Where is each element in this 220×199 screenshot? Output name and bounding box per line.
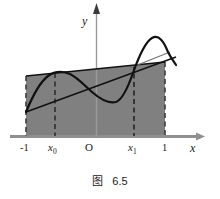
x-tick-label-minus-one: -1	[20, 142, 29, 153]
figure-caption-number: 6.5	[112, 175, 127, 187]
x-axis-label: x	[189, 141, 196, 155]
figure-plot: y x O -1 x0 x1 1	[0, 0, 220, 199]
y-axis-label: y	[81, 14, 88, 28]
figure-container: y x O -1 x0 x1 1 图6.5	[0, 0, 220, 199]
x-tick-label-one: 1	[162, 142, 167, 153]
figure-caption: 图6.5	[0, 172, 220, 188]
origin-label: O	[85, 141, 93, 153]
y-axis-arrow	[93, 3, 100, 14]
x-tick-label-x1: x1	[127, 141, 137, 156]
x-tick-label-x0: x0	[47, 141, 57, 156]
x-axis-arrow	[196, 133, 205, 141]
figure-caption-label: 图	[92, 172, 103, 188]
